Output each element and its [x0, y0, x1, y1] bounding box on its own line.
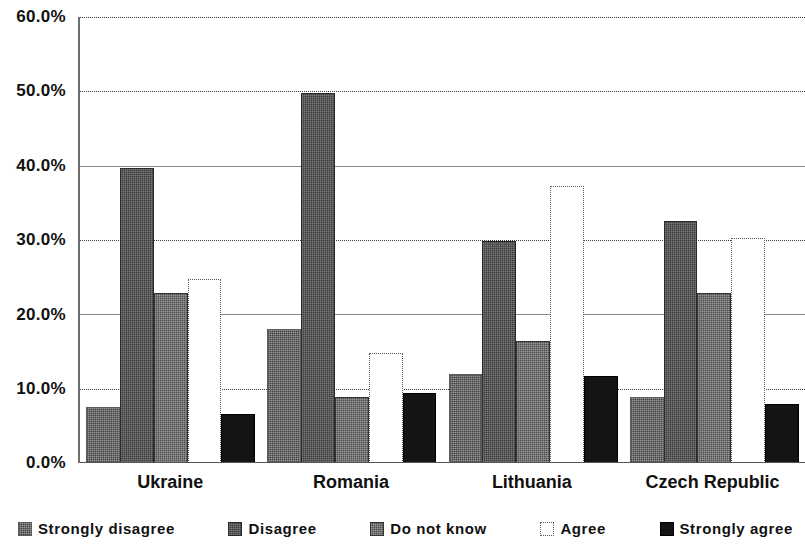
bar-romania-do-not-know: [335, 397, 369, 463]
y-tick-label: 10.0%: [16, 379, 66, 399]
y-tick-label: 0.0%: [26, 453, 66, 473]
bar-ukraine-strongly-agree: [221, 414, 255, 463]
bar-ukraine-agree: [188, 279, 222, 463]
bar-romania-strongly-disagree: [267, 329, 301, 463]
legend-label: Agree: [560, 520, 606, 537]
group-ukraine: [80, 17, 261, 463]
legend-swatch-icon: [540, 522, 554, 536]
legend-swatch-icon: [370, 522, 384, 536]
plot-area: [78, 17, 805, 463]
y-tick-label: 40.0%: [16, 156, 66, 176]
bar-czech-republic-strongly-agree: [765, 404, 799, 463]
x-axis-line: [80, 462, 805, 463]
y-tick-label: 50.0%: [16, 81, 66, 101]
x-axis: Ukraine Romania Lithuania Czech Republic: [80, 472, 803, 493]
legend-swatch-icon: [660, 522, 674, 536]
bar-lithuania-strongly-disagree: [449, 374, 483, 463]
bar-lithuania-strongly-agree: [584, 376, 618, 463]
legend-label: Disagree: [248, 520, 316, 537]
legend-item-agree: Agree: [540, 520, 606, 537]
bar-groups: [80, 17, 805, 463]
y-tick-label: 20.0%: [16, 305, 66, 325]
legend-item-disagree: Disagree: [228, 520, 316, 537]
chart-legend: Strongly disagree Disagree Do not know A…: [0, 512, 803, 545]
x-category-label: Romania: [261, 472, 442, 493]
bar-czech-republic-strongly-disagree: [630, 397, 664, 463]
x-category-label: Lithuania: [442, 472, 623, 493]
bar-lithuania-agree: [550, 186, 584, 463]
bar-romania-agree: [369, 353, 403, 464]
bar-ukraine-strongly-disagree: [86, 407, 120, 463]
bar-romania-disagree: [301, 93, 335, 463]
legend-swatch-icon: [228, 522, 242, 536]
legend-label: Strongly agree: [680, 520, 793, 537]
legend-item-strongly-disagree: Strongly disagree: [18, 520, 175, 537]
x-category-label: Ukraine: [80, 472, 261, 493]
legend-item-do-not-know: Do not know: [370, 520, 487, 537]
bar-lithuania-disagree: [482, 241, 516, 463]
legend-label: Strongly disagree: [38, 520, 175, 537]
x-category-label: Czech Republic: [622, 472, 803, 493]
group-lithuania: [443, 17, 624, 463]
bar-ukraine-disagree: [120, 168, 154, 463]
y-tick-label: 30.0%: [16, 230, 66, 250]
bar-czech-republic-agree: [731, 238, 765, 463]
y-tick-label: 60.0%: [16, 7, 66, 27]
bar-lithuania-do-not-know: [516, 341, 550, 463]
group-romania: [261, 17, 442, 463]
y-axis: 60.0% 50.0% 40.0% 30.0% 20.0% 10.0% 0.0%: [0, 0, 72, 480]
bar-czech-republic-disagree: [664, 221, 698, 463]
bar-ukraine-do-not-know: [154, 293, 188, 463]
bar-romania-strongly-agree: [403, 393, 437, 463]
legend-item-strongly-agree: Strongly agree: [660, 520, 793, 537]
group-czech-republic: [624, 17, 805, 463]
bar-czech-republic-do-not-know: [697, 293, 731, 463]
legend-swatch-icon: [18, 522, 32, 536]
legend-label: Do not know: [390, 520, 487, 537]
